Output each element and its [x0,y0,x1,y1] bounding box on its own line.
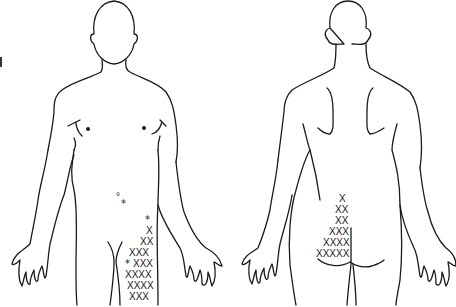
front-right-nipple [142,126,146,130]
back-pain-markers: X XX XX XXX XXXX XXXXX [316,193,350,259]
front-marker-star: * [145,214,150,225]
front-left-arm [12,150,74,286]
front-right-arm [158,162,222,286]
front-marker-row: XXX [129,291,149,302]
back-marker-row: XX [335,215,349,226]
back-left-scapula [318,88,333,134]
front-marker-row: X [146,225,153,236]
front-right-pec-line [152,120,166,150]
front-marker-star: * [121,198,126,209]
back-right-inner [392,124,402,305]
back-marker-row: XXX [329,226,349,237]
front-body-outline [12,1,222,305]
back-marker-row: XXXX [323,237,350,248]
front-head [91,1,138,64]
front-left-inner-arm [72,150,77,305]
back-left-waist [310,150,320,200]
body-diagram: ° * * X XX XXX * XXX XXXX XXXX XXX X XX … [0,0,456,307]
front-left-side [48,60,102,150]
front-marker-row: XXX [129,247,149,258]
back-left-arm [242,160,292,284]
back-head [325,1,371,44]
front-left-nipple [86,127,90,131]
back-left-inner [289,124,310,305]
back-body-outline [242,1,456,305]
front-marker-row: XXXX [127,280,154,291]
front-marker-row: XX [140,236,154,247]
front-marker-star: * [125,258,130,269]
front-left-pec-line [68,120,82,150]
front-right-inner [157,150,159,305]
front-groin-line [108,242,122,305]
back-right-scapula [367,88,384,134]
back-neck-right [366,44,422,168]
front-marker-row: XXXX [125,269,152,280]
back-marker-row: XXXXX [316,248,350,259]
front-marker-dot: ° [116,191,120,202]
front-pain-markers: ° * * X XX XXX * XXX XXXX XXXX XXX [116,191,154,302]
front-right-side [126,60,178,162]
back-marker-row: XX [335,204,349,215]
back-marker-row: X [339,193,346,204]
front-marker-row: XXX [133,258,153,269]
back-right-arm [400,168,456,286]
back-neck-left [278,44,336,160]
